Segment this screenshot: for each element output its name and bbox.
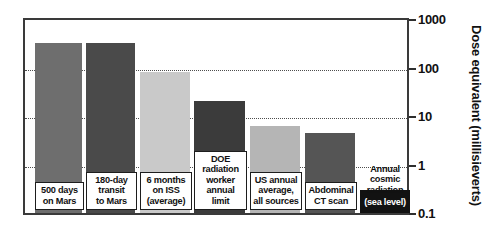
- bar-label-line: radiation: [195, 164, 246, 175]
- y-tick-1000: [409, 19, 416, 21]
- bar-label-line: radiation: [360, 185, 410, 196]
- gridline-100: [25, 70, 407, 71]
- bar-label-line: worker: [195, 175, 246, 186]
- bar-label-line: average,: [251, 185, 301, 196]
- bar-label-3: 6 monthson ISS(average): [140, 172, 192, 210]
- bar-label-line: (average): [141, 196, 191, 207]
- bar-label-1: 500 dayson Mars: [35, 182, 84, 210]
- bar-label-line: on ISS: [141, 185, 191, 196]
- bar-label-line: cosmic: [360, 174, 410, 185]
- bar-label-line: limit: [195, 196, 246, 207]
- bar-label-line: 6 months: [141, 175, 191, 186]
- y-tick-label-10: 10: [418, 110, 432, 123]
- bar-label-line: transit: [87, 185, 136, 196]
- bar-label-line: 500 days: [36, 185, 83, 196]
- bar-label-line: Abdominal: [306, 185, 356, 196]
- y-tick-label-0.1: 0.1: [418, 207, 435, 220]
- bar-label-6: AbdominalCT scan: [305, 182, 357, 210]
- bar-label-line: to Mars: [87, 196, 136, 207]
- plot-area: 500 dayson Mars180-daytransitto Mars6 mo…: [23, 18, 409, 215]
- y-axis-title-text: Dose equivalent (millisieverts): [469, 25, 484, 206]
- y-tick-100: [409, 68, 416, 70]
- y-tick-label-1000: 1000: [418, 13, 446, 26]
- bar-label-line: CT scan: [306, 196, 356, 207]
- bar-label-inverse-line: (sea level): [360, 196, 410, 210]
- bar-label-4: DOEradiationworkerannuallimit: [194, 151, 247, 210]
- bar-label-line: all sources: [251, 196, 301, 207]
- y-tick-1: [409, 165, 416, 167]
- bar-label-line: on Mars: [36, 196, 83, 207]
- bar-label-line: Annual: [360, 164, 410, 175]
- y-tick-0.1: [409, 213, 416, 215]
- bar-label-line: annual: [195, 185, 246, 196]
- y-tick-label-1: 1: [418, 158, 425, 171]
- bar-label-7: Annualcosmicradiation(sea level): [360, 164, 410, 210]
- bar-label-line: DOE: [195, 154, 246, 165]
- y-tick-10: [409, 116, 416, 118]
- y-tick-label-100: 100: [418, 61, 439, 74]
- radiation-dose-chart: 500 dayson Mars180-daytransitto Mars6 mo…: [0, 0, 485, 230]
- bar-label-2: 180-daytransitto Mars: [86, 172, 137, 210]
- bar-label-line: 180-day: [87, 175, 136, 186]
- y-axis-title: Dose equivalent (millisieverts): [465, 0, 485, 230]
- bar-label-5: US annualaverage,all sources: [250, 172, 302, 210]
- bar-label-line: US annual: [251, 175, 301, 186]
